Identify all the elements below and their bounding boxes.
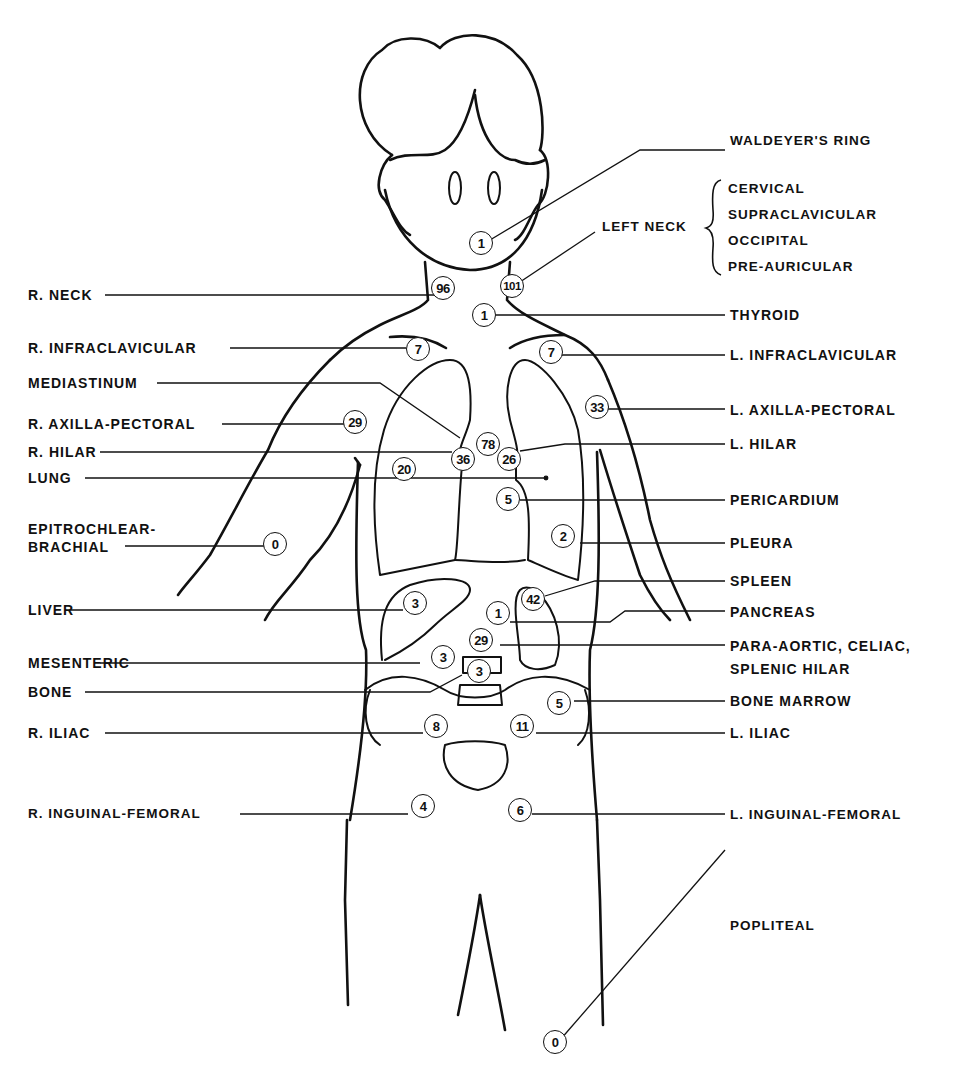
count-mesenteric: 3 [431, 645, 455, 669]
count-r-infraclavicular: 7 [406, 337, 430, 361]
count-r-inguinal-femoral: 4 [411, 794, 435, 818]
count-mediastinum: 78 [476, 432, 500, 456]
label-r-inguinal-femoral: R. INGUINAL-FEMORAL [28, 805, 201, 823]
count-pleura: 2 [551, 524, 575, 548]
label-r-hilar: R. HILAR [28, 443, 97, 461]
count-bone: 3 [467, 659, 491, 683]
label-para-aortic: PARA-AORTIC, CELIAC, [730, 637, 911, 655]
label-spleen: SPLEEN [730, 572, 792, 590]
label-cervical: CERVICAL [728, 180, 805, 198]
label-l-inguinal-femoral: L. INGUINAL-FEMORAL [730, 806, 901, 824]
lymph-node-diagram: R. NECK R. INFRACLAVICULAR MEDIASTINUM R… [0, 0, 971, 1071]
count-l-hilar: 26 [497, 447, 521, 471]
count-liver: 3 [403, 591, 427, 615]
count-para-aortic: 29 [469, 628, 493, 652]
label-brachial: BRACHIAL [28, 538, 109, 556]
label-occipital: OCCIPITAL [728, 232, 809, 250]
label-r-axilla-pectoral: R. AXILLA-PECTORAL [28, 415, 195, 433]
count-l-infraclavicular: 7 [539, 340, 563, 364]
label-lung: LUNG [28, 469, 72, 487]
label-l-hilar: L. HILAR [730, 435, 797, 453]
label-supraclavicular: SUPRACLAVICULAR [728, 206, 877, 224]
label-r-infraclavicular: R. INFRACLAVICULAR [28, 339, 197, 357]
count-left-neck: 101 [500, 274, 524, 298]
count-r-hilar: 36 [451, 447, 475, 471]
label-l-axilla-pectoral: L. AXILLA-PECTORAL [730, 401, 896, 419]
count-r-iliac: 8 [424, 714, 448, 738]
count-spleen: 42 [521, 587, 545, 611]
label-epitrochlear: EPITROCHLEAR- [28, 520, 156, 538]
count-bone-marrow: 5 [547, 691, 571, 715]
label-l-infraclavicular: L. INFRACLAVICULAR [730, 346, 897, 364]
count-pancreas: 1 [486, 601, 510, 625]
count-l-axilla-pectoral: 33 [585, 395, 609, 419]
label-waldeyers-ring: WALDEYER'S RING [730, 132, 871, 150]
label-l-iliac: L. ILIAC [730, 724, 791, 742]
count-lung: 20 [392, 457, 416, 481]
label-pleura: PLEURA [730, 534, 794, 552]
label-r-iliac: R. ILIAC [28, 724, 90, 742]
count-l-iliac: 11 [510, 714, 534, 738]
count-r-axilla-pectoral: 29 [343, 410, 367, 434]
label-r-neck: R. NECK [28, 286, 93, 304]
count-popliteal: 0 [543, 1030, 567, 1054]
label-bone: BONE [28, 683, 72, 701]
label-bone-marrow: BONE MARROW [730, 692, 851, 710]
label-popliteal: POPLITEAL [730, 917, 815, 935]
count-r-neck: 96 [431, 276, 455, 300]
label-pre-auricular: PRE-AURICULAR [728, 258, 854, 276]
label-pancreas: PANCREAS [730, 603, 816, 621]
count-l-inguinal-femoral: 6 [508, 798, 532, 822]
label-pericardium: PERICARDIUM [730, 491, 840, 509]
count-pericardium: 5 [496, 487, 520, 511]
label-thyroid: THYROID [730, 306, 800, 324]
label-splenic-hilar: SPLENIC HILAR [730, 660, 850, 678]
label-left-neck: LEFT NECK [602, 218, 687, 236]
count-thyroid: 1 [472, 303, 496, 327]
count-waldeyers-ring: 1 [469, 231, 493, 255]
label-liver: LIVER [28, 601, 74, 619]
label-mediastinum: MEDIASTINUM [28, 374, 138, 392]
label-mesenteric: MESENTERIC [28, 654, 130, 672]
count-epitrochlear-brachial: 0 [263, 532, 287, 556]
